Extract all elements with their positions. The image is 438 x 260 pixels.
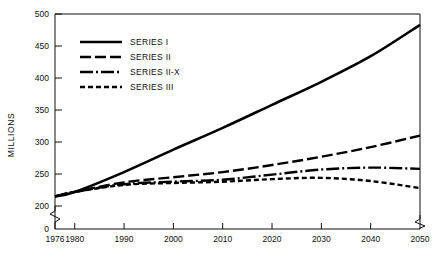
y-tick-label-350: 350	[35, 105, 49, 115]
y-tick-label-300: 300	[35, 137, 49, 147]
x-tick-label-2050: 2050	[411, 234, 430, 244]
y-tick-label-500: 500	[35, 9, 49, 19]
x-tick-label-1990: 1990	[115, 234, 134, 244]
series-line-series-ii-x	[55, 168, 420, 197]
series-line-series-ii	[55, 136, 420, 197]
x-tick-label-1980: 1980	[65, 234, 84, 244]
y-axis-tick-labels: 0200250300350400450500	[35, 9, 49, 234]
x-axis-tick-labels: 197619801990200020102020203020402050	[46, 234, 430, 244]
x-tick-label-2030: 2030	[312, 234, 331, 244]
x-tick-label-2040: 2040	[361, 234, 380, 244]
chart-canvas: 0200250300350400450500 19761980199020002…	[0, 0, 438, 260]
legend-label-series-i: SERIES I	[130, 37, 168, 47]
y-tick-label-400: 400	[35, 73, 49, 83]
series-line-series-iii	[55, 178, 420, 197]
y-axis-ticks	[55, 14, 62, 206]
x-tick-label-1976: 1976	[46, 234, 65, 244]
series-lines	[55, 25, 420, 197]
y-tick-label-450: 450	[35, 41, 49, 51]
y-axis-title: MILLIONS	[6, 113, 16, 157]
population-projection-chart: 0200250300350400450500 19761980199020002…	[0, 0, 438, 260]
x-tick-label-2000: 2000	[164, 234, 183, 244]
legend: SERIES ISERIES IISERIES II-XSERIES III	[80, 37, 180, 92]
x-axis-ticks	[75, 223, 371, 229]
x-tick-label-2010: 2010	[213, 234, 232, 244]
y-tick-label-0: 0	[44, 224, 49, 234]
y-tick-label-250: 250	[35, 169, 49, 179]
x-tick-label-2020: 2020	[263, 234, 282, 244]
legend-label-series-ii-x: SERIES II-X	[130, 67, 180, 77]
y-tick-label-200: 200	[35, 201, 49, 211]
legend-label-series-iii: SERIES III	[130, 82, 174, 92]
legend-label-series-ii: SERIES II	[130, 52, 171, 62]
